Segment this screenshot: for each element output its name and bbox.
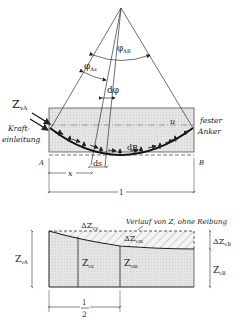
phi-AB-label: φAB: [117, 43, 131, 54]
half-denominator: 2: [82, 310, 87, 319]
arc-phi-AB: [93, 55, 150, 61]
arc-phi-Ax: [83, 72, 106, 80]
phi-Ax-label: φAx: [84, 61, 97, 72]
anker-label: Anker: [197, 127, 221, 136]
tendon-friction-diagram: φAB φAx dφ Z: [0, 0, 240, 327]
u-label: u: [170, 117, 175, 126]
top-diagram: φAB φAx dφ Z: [2, 8, 223, 197]
dphi-label: dφ: [107, 85, 119, 95]
dZ-vB-label: ΔZvB: [213, 237, 231, 247]
note-leader: [138, 226, 143, 230]
ds-label: ds: [93, 159, 102, 168]
point-B-label: B: [198, 159, 204, 167]
bottom-diagram: Verlauf von Z, ohne Reibung ΔZvx ΔZvm ΔZ…: [15, 218, 231, 320]
dR-label: dR: [127, 143, 139, 152]
Z-vA-label: ZvA: [12, 98, 28, 111]
Z-vA-value-label: ZvA: [15, 254, 28, 265]
point-A-label: A: [38, 159, 44, 167]
concrete-beam: [49, 108, 194, 152]
x-label: x: [68, 169, 73, 178]
Z-vB-label: ZvB: [213, 265, 226, 276]
force-entry-arrows: [30, 113, 50, 130]
einleitung-label: einleitung: [2, 135, 41, 144]
l-label: l: [120, 188, 123, 197]
kraft-label: Kraft-: [7, 124, 30, 133]
no-friction-note: Verlauf von Z, ohne Reibung: [126, 218, 227, 226]
fester-label: fester: [199, 116, 223, 125]
dZ-vx-label: ΔZvx: [81, 221, 98, 231]
